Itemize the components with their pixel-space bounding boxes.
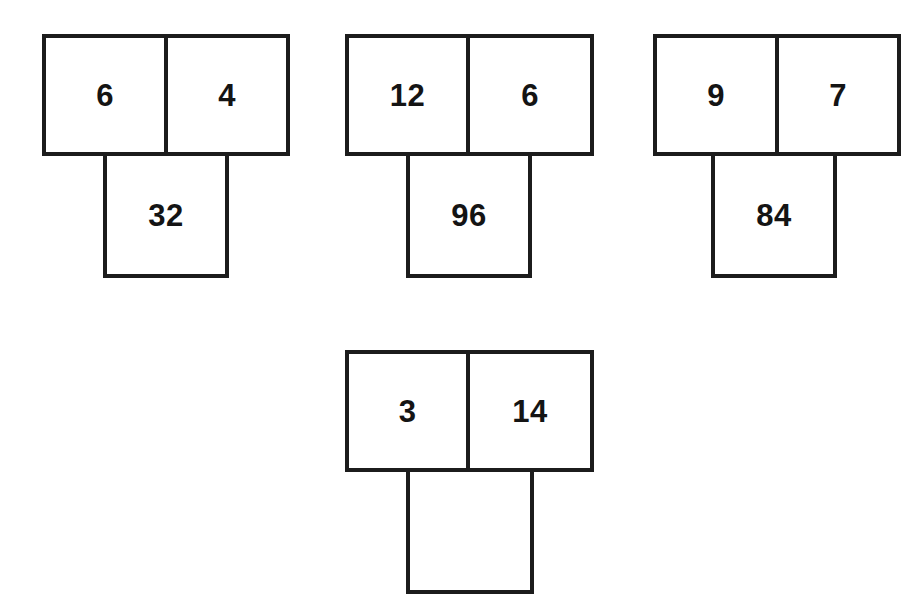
puzzle-1-answer-box[interactable]: 32 (103, 152, 229, 278)
puzzle-2-top-row: 12 6 (345, 34, 594, 156)
puzzle-group-2: 12 6 96 (345, 34, 595, 280)
puzzle-4-top-row: 3 14 (345, 350, 594, 472)
puzzle-group-4: 3 14 (345, 350, 595, 596)
puzzle-4-top-left-value: 3 (399, 396, 417, 427)
puzzle-group-1: 6 4 32 (42, 34, 292, 280)
puzzle-2-answer-value: 96 (451, 200, 486, 231)
worksheet-canvas: 6 4 32 12 6 96 9 (0, 0, 923, 600)
puzzle-1-top-right-cell[interactable]: 4 (168, 38, 286, 152)
puzzle-1-top-row: 6 4 (42, 34, 290, 156)
puzzle-2-top-left-cell[interactable]: 12 (349, 38, 470, 152)
puzzle-3-top-left-cell[interactable]: 9 (657, 38, 779, 152)
puzzle-1-answer-value: 32 (148, 200, 183, 231)
puzzle-3-top-left-value: 9 (707, 80, 725, 111)
puzzle-4-answer-box[interactable] (406, 468, 534, 594)
puzzle-2-top-right-value: 6 (521, 80, 539, 111)
puzzle-3-top-right-value: 7 (829, 80, 847, 111)
puzzle-2-top-left-value: 12 (390, 80, 425, 111)
puzzle-4-top-left-cell[interactable]: 3 (349, 354, 470, 468)
puzzle-1-top-left-cell[interactable]: 6 (46, 38, 168, 152)
puzzle-3-top-row: 9 7 (653, 34, 901, 156)
puzzle-3-answer-value: 84 (756, 200, 791, 231)
puzzle-2-answer-box[interactable]: 96 (406, 152, 532, 278)
puzzle-group-3: 9 7 84 (653, 34, 903, 280)
puzzle-1-top-right-value: 4 (218, 80, 236, 111)
puzzle-4-top-right-value: 14 (512, 396, 547, 427)
puzzle-2-top-right-cell[interactable]: 6 (470, 38, 590, 152)
puzzle-4-top-right-cell[interactable]: 14 (470, 354, 590, 468)
puzzle-1-top-left-value: 6 (96, 80, 114, 111)
puzzle-3-answer-box[interactable]: 84 (711, 152, 837, 278)
puzzle-3-top-right-cell[interactable]: 7 (779, 38, 897, 152)
